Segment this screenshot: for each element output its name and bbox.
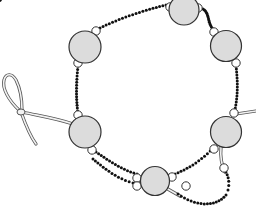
seed-strand-lower-left-inner — [94, 159, 97, 162]
seed-strand-lower-left-inner — [105, 168, 108, 171]
seed-strand-top-left — [108, 22, 111, 25]
seed-strand-top-left — [145, 9, 148, 12]
seed-strand-lower-left-inner — [111, 172, 114, 175]
seed-strand-lower-left-outer — [97, 152, 100, 155]
seed-strand-lower-right — [179, 170, 182, 173]
seed-strand-lower-right — [203, 155, 206, 158]
seed-strand-top-left — [105, 24, 108, 27]
seed-strand-top-left — [151, 7, 154, 10]
seed-strand-right — [235, 74, 238, 77]
seed-strand-right — [235, 98, 238, 101]
spacer-bead — [230, 109, 238, 117]
seed-strand-top-left — [118, 18, 121, 21]
seed-strand-right — [236, 80, 239, 83]
seed-strand-tail — [186, 198, 189, 201]
seed-strand-lower-left-outer — [126, 169, 129, 172]
seed-strand-tail — [190, 200, 193, 203]
seed-strand-tail — [193, 201, 196, 204]
seed-strand-tail — [183, 197, 186, 200]
seed-strand-tail — [227, 176, 230, 179]
seed-strand-lower-left-inner — [124, 179, 127, 182]
seed-strand-lower-left-outer — [117, 165, 120, 168]
spacer-bead — [133, 182, 141, 190]
seed-strand-top-left — [161, 4, 164, 7]
big-bead-lower-right — [211, 117, 242, 148]
seed-strand-top-left — [114, 19, 117, 22]
seed-strand-top-left — [141, 10, 144, 13]
seed-strand-right — [236, 92, 239, 95]
seed-strand-tail — [196, 202, 199, 205]
seed-strand-right — [236, 89, 239, 92]
seed-strand-top-left — [135, 12, 138, 15]
seed-strand-lower-left-inner — [92, 158, 95, 161]
seed-strand-top-left — [128, 14, 131, 17]
seed-strand-lower-left-inner — [114, 174, 117, 177]
seed-strand-tail — [177, 193, 180, 196]
seed-strand-lower-left-outer — [123, 168, 126, 171]
seed-strand-top-left — [124, 16, 127, 19]
seed-strand-right — [234, 104, 237, 107]
seed-strand-top-left — [121, 17, 124, 20]
seed-strand-tail — [227, 184, 230, 187]
seed-strand-top-left — [138, 11, 141, 14]
seed-strand-tail — [203, 202, 206, 205]
seed-strand-right — [235, 68, 238, 71]
seed-strand-lower-right — [177, 171, 180, 174]
seed-strand-lower-left-outer — [102, 156, 105, 159]
seed-strand-left — [75, 87, 78, 90]
seed-strand-right — [235, 71, 238, 74]
seed-strand-right — [236, 83, 239, 86]
seed-strand-lower-right — [197, 159, 200, 162]
seed-strand-left — [76, 71, 79, 74]
bracelet-illustration — [0, 0, 256, 212]
seed-strand-tail — [220, 198, 223, 201]
big-bead-bottom — [141, 167, 170, 196]
seed-strand-tail — [217, 199, 220, 202]
seed-strand-top-left — [102, 25, 105, 28]
seed-strand-lower-right — [191, 163, 194, 166]
seed-strand-lower-left-inner — [107, 170, 110, 173]
seed-strand-top-right — [0, 0, 2, 2]
seed-strand-right — [236, 77, 239, 80]
seed-strand-tail — [200, 202, 203, 205]
big-bead-top — [169, 0, 199, 25]
spacer-bead — [210, 145, 218, 153]
seed-strand-tail — [206, 202, 209, 205]
seed-strand-lower-left-inner — [120, 177, 123, 180]
seed-strand-right — [235, 101, 238, 104]
seed-strand-lower-right — [188, 165, 191, 168]
seed-strand-left — [75, 92, 78, 95]
seed-strand-lower-left-outer — [129, 170, 132, 173]
seed-strand-lower-right — [200, 157, 203, 160]
seed-strand-left — [75, 101, 78, 104]
seed-strand-left — [75, 84, 78, 87]
seed-strand-lower-left-outer — [108, 159, 111, 162]
seed-strand-tail — [212, 201, 215, 204]
big-bead-upper-right — [211, 31, 242, 62]
seed-strand-lower-left-outer — [100, 154, 103, 157]
seed-strand-lower-left-outer — [120, 166, 123, 169]
seed-strand-right — [236, 86, 239, 89]
seed-strand-left — [76, 68, 79, 71]
seed-strand-top-left — [155, 6, 158, 9]
big-bead-upper-left — [69, 31, 101, 63]
seed-strand-left — [76, 107, 79, 110]
seed-strand-lower-left-inner — [96, 162, 99, 165]
seed-strand-left — [75, 95, 78, 98]
seed-strand-lower-right — [182, 168, 185, 171]
seed-strand-tail — [227, 180, 230, 183]
seed-strand-lower-right — [194, 161, 197, 164]
seed-strand-tail — [180, 195, 183, 198]
seed-strand-lower-left-outer — [114, 163, 117, 166]
seed-strand-left — [75, 98, 78, 101]
cord-to-bead — [22, 112, 73, 124]
seed-strand-lower-left-outer — [105, 158, 108, 161]
seed-strand-lower-left-inner — [117, 176, 120, 179]
seed-strand-tail — [215, 201, 218, 204]
seed-strand-tail — [226, 173, 229, 176]
seed-strand-left — [76, 104, 79, 107]
seed-strand-left — [75, 81, 78, 84]
big-bead-lower-left — [69, 116, 101, 148]
seed-strand-left — [76, 75, 79, 78]
seed-strand-tail — [222, 196, 225, 199]
